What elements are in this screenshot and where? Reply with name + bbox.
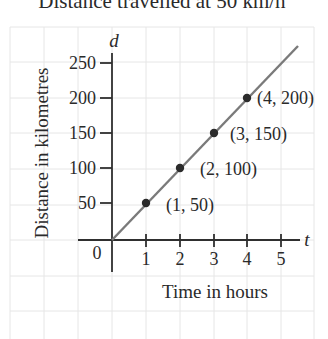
y-axis-title: Distance in kilometres [31,68,52,239]
distance-time-chart: Distance travelled at 50 km/h [0,0,328,339]
data-point-4 [243,94,251,102]
y-tick-label-150: 150 [69,123,96,143]
x-tick-label-2: 2 [176,249,185,269]
y-tick-label-50: 50 [78,193,96,213]
x-axis-title: Time in hours [162,281,268,302]
x-tick-label-1: 1 [142,249,151,269]
y-tick-label-100: 100 [69,158,96,178]
y-tick-label-250: 250 [69,53,96,73]
x-tick-label-4: 4 [243,249,252,269]
point-label-4: (4, 200) [257,88,314,109]
y-ticks [100,63,112,203]
origin-label: 0 [93,243,102,263]
data-point-2 [176,164,184,172]
point-label-3: (3, 150) [230,124,287,145]
point-label-1: (1, 50) [166,195,214,216]
point-label-2: (2, 100) [200,159,257,180]
data-point-1 [142,199,150,207]
y-variable-label: d [109,30,119,51]
x-tick-label-5: 5 [277,249,286,269]
data-point-3 [210,129,218,137]
x-tick-label-3: 3 [210,249,219,269]
y-tick-label-200: 200 [69,88,96,108]
x-variable-label: t [304,229,310,250]
chart-title: Distance travelled at 50 km/h [38,0,286,13]
